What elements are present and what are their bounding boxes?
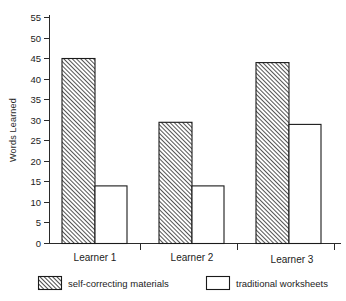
y-tick-label: 25	[30, 135, 41, 146]
legend-label-self-correcting-materials: self-correcting materials	[68, 278, 169, 289]
y-tick-label: 50	[30, 33, 41, 44]
y-axis-title: Words Learned	[8, 98, 18, 162]
y-tick-label: 45	[30, 53, 41, 64]
bar-self-correcting-materials-learner-2	[159, 122, 192, 243]
y-tick-label: 35	[30, 94, 41, 105]
y-tick-label: 20	[30, 156, 41, 167]
x-axis-label-learner-3: Learner 3	[271, 254, 314, 265]
bar-chart-figure: Words Learned 0 5 10 15 20 25	[0, 0, 346, 301]
white-swatch-icon	[207, 277, 230, 290]
bar-traditional-worksheets-learner-2	[192, 186, 224, 244]
x-axis-label-learner-2: Learner 2	[171, 252, 214, 263]
y-tick-label: 5	[36, 217, 41, 228]
bar-self-correcting-materials-learner-1	[62, 59, 95, 244]
y-tick-label: 15	[30, 176, 41, 187]
bar-traditional-worksheets-learner-1	[95, 186, 127, 244]
x-axis-label-learner-1: Learner 1	[74, 252, 117, 263]
y-tick-label: 30	[30, 115, 41, 126]
y-tick-label: 0	[36, 238, 41, 249]
bar-self-correcting-materials-learner-3	[256, 63, 289, 244]
y-tick-label: 10	[30, 197, 41, 208]
hatched-swatch-icon	[39, 277, 62, 290]
legend-item-traditional-worksheets: traditional worksheets	[207, 277, 329, 290]
bar-traditional-worksheets-learner-3	[289, 124, 321, 243]
legend-item-self-correcting-materials: self-correcting materials	[39, 277, 170, 290]
y-tick-label: 55	[30, 12, 41, 23]
y-tick-label: 40	[30, 74, 41, 85]
legend-label-traditional-worksheets: traditional worksheets	[236, 278, 328, 289]
